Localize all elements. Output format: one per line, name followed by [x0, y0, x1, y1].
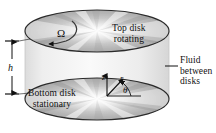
top-disk-label: Top diskrotating [112, 23, 146, 44]
fluid-callout-label: Fluidbetweendisks [180, 55, 212, 87]
fluid-label-line1: Fluid [180, 55, 201, 65]
angular-velocity-label: Ω [57, 28, 65, 39]
fluid-label-line3: disks [180, 76, 200, 86]
z-axis-label: z [102, 72, 105, 83]
bottom-disk-label-line2: stationary [33, 99, 71, 109]
bottom-disk-label: Bottom diskstationary [28, 88, 76, 109]
theta-angle-label: θ [123, 85, 128, 96]
fluid-label-line2: between [180, 66, 212, 76]
gap-height-label: h [8, 63, 13, 74]
top-disk-label-line2: rotating [114, 34, 144, 44]
r-axis-label: r [120, 73, 123, 84]
bottom-disk-label-line1: Bottom disk [28, 88, 76, 98]
top-disk-label-line1: Top disk [112, 23, 146, 33]
figure-container: Top diskrotating Bottom diskstationary F… [0, 0, 216, 133]
